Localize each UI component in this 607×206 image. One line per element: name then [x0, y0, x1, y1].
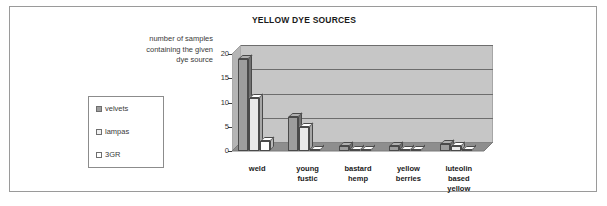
x-axis-label-weld: weld	[232, 164, 282, 174]
x-axis-label-line: yellow	[383, 164, 433, 174]
bar-lampas-bastard-hemp	[350, 150, 360, 152]
y-axis-title-line: number of samples	[105, 34, 213, 45]
y-tick-label: 5	[225, 122, 229, 131]
bar-velvets-young-fustic	[288, 117, 298, 151]
x-axis-label-line: luteolin	[434, 164, 484, 174]
bar-3gr-yellow-berries	[411, 150, 421, 152]
x-axis-label-line: young	[282, 164, 332, 174]
bar-face	[361, 149, 371, 151]
gridline	[241, 118, 493, 119]
y-axis-title-line: containing the given	[105, 45, 213, 56]
x-axis-label-yellow-berries: yellowberries	[383, 164, 433, 184]
legend-label: 3GR	[105, 150, 120, 159]
bar-lampas-weld	[249, 98, 259, 151]
legend-label: velvets	[105, 104, 128, 113]
x-axis-label-young-fustic: youngfustic	[282, 164, 332, 184]
bar-face	[400, 149, 410, 151]
chart-title: YELLOW DYE SOURCES	[10, 15, 598, 25]
bar-lampas-luteolin-based-yellow	[451, 146, 461, 151]
x-axis-label-line: yellow	[434, 184, 484, 194]
y-tick-label: 0	[225, 146, 229, 155]
legend-swatch-icon	[96, 152, 102, 158]
chart-frame: YELLOW DYE SOURCES number of samples con…	[9, 6, 597, 192]
x-axis-label-bastard-hemp: bastardhemp	[333, 164, 383, 184]
bar-face	[451, 146, 461, 151]
bar-face	[462, 149, 472, 151]
bar-velvets-yellow-berries	[389, 146, 399, 151]
x-axis-label-line: fustic	[282, 174, 332, 184]
legend-swatch-icon	[96, 106, 102, 112]
bar-3gr-bastard-hemp	[361, 150, 371, 152]
bar-3gr-young-fustic	[310, 150, 320, 152]
bar-lampas-young-fustic	[299, 127, 309, 151]
gridline	[241, 94, 493, 95]
bar-face	[310, 149, 320, 151]
legend-item-3gr: 3GR	[96, 150, 120, 159]
bar-velvets-bastard-hemp	[339, 146, 349, 151]
bar-lampas-yellow-berries	[400, 150, 410, 152]
bar-face	[350, 149, 360, 151]
y-tick-label: 15	[221, 73, 229, 82]
legend-item-velvets: velvets	[96, 104, 128, 113]
y-tick-label: 10	[221, 98, 229, 107]
gridline	[241, 69, 493, 70]
x-axis-labels: weldyoungfusticbastardhempyellowberriesl…	[232, 164, 502, 206]
x-axis-label-luteolin-based-yellow: luteolinbasedyellow	[434, 164, 484, 194]
bar-face	[389, 146, 399, 151]
bar-face	[249, 98, 259, 151]
plot-area: 05101520	[232, 45, 500, 165]
legend-swatch-icon	[96, 129, 102, 135]
y-tick-label: 20	[221, 49, 229, 58]
bar-face	[411, 149, 421, 151]
bar-3gr-weld	[260, 141, 270, 151]
y-axis-title: number of samples containing the given d…	[105, 34, 213, 66]
y-axis-title-line: dye source	[105, 55, 213, 66]
bar-face	[299, 127, 309, 151]
x-axis-label-line: weld	[232, 164, 282, 174]
bar-face	[339, 146, 349, 151]
bar-face	[288, 117, 298, 151]
bar-face	[440, 144, 450, 151]
bar-face	[238, 59, 248, 151]
legend-item-lampas: lampas	[96, 127, 129, 136]
x-axis-label-line: based	[434, 174, 484, 184]
bar-face	[260, 141, 270, 151]
chart-legend: velvets lampas 3GR	[88, 96, 164, 168]
bar-velvets-luteolin-based-yellow	[440, 144, 450, 151]
x-axis-label-line: berries	[383, 174, 433, 184]
bar-velvets-weld	[238, 59, 248, 151]
gridline	[241, 45, 493, 46]
bar-3gr-luteolin-based-yellow	[462, 150, 472, 152]
x-axis-label-line: bastard	[333, 164, 383, 174]
legend-label: lampas	[105, 127, 129, 136]
x-axis-label-line: hemp	[333, 174, 383, 184]
chart-figure: YELLOW DYE SOURCES number of samples con…	[0, 0, 607, 206]
